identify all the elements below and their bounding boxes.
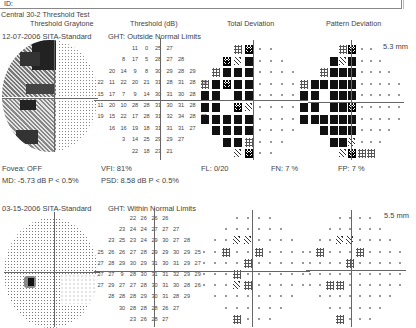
- exam-1-psd: PSD: 8.58 dB P < 0.5%: [101, 176, 179, 185]
- normal-point-icon: [280, 228, 282, 230]
- normal-point-icon: [270, 129, 272, 131]
- normal-point-icon: [269, 295, 271, 297]
- normal-point-icon: [269, 284, 271, 286]
- normal-point-icon: [370, 48, 372, 50]
- col-header-graytone: Threshold Graytone: [30, 19, 94, 28]
- p1-checker-icon: [223, 80, 231, 89]
- normal-point-icon: [389, 251, 391, 253]
- normal-point-icon: [369, 239, 371, 241]
- normal-point-icon: [259, 141, 261, 143]
- p05-solid-icon: [339, 103, 347, 112]
- normal-point-icon: [379, 141, 381, 143]
- p05-solid-icon: [223, 68, 231, 77]
- p1-checker-icon: [245, 45, 253, 54]
- p05-solid-icon: [320, 80, 328, 89]
- normal-point-icon: [399, 251, 401, 253]
- normal-point-icon: [361, 118, 363, 120]
- p05-solid-icon: [339, 91, 347, 100]
- normal-point-icon: [214, 262, 216, 264]
- p05-solid-icon: [339, 80, 347, 89]
- normal-point-icon: [270, 60, 272, 62]
- normal-point-icon: [225, 284, 227, 286]
- normal-point-icon: [369, 295, 371, 297]
- p05-solid-icon: [245, 68, 253, 77]
- normal-point-icon: [359, 228, 361, 230]
- normal-point-icon: [280, 273, 282, 275]
- normal-point-icon: [302, 273, 304, 275]
- normal-point-icon: [398, 118, 400, 120]
- p05-solid-icon: [330, 115, 338, 124]
- exam-2-pd-h-axis: [306, 270, 406, 271]
- p05-solid-icon: [223, 126, 231, 135]
- normal-point-icon: [388, 106, 390, 108]
- normal-point-icon: [214, 239, 216, 241]
- normal-point-icon: [369, 307, 371, 309]
- normal-point-icon: [269, 318, 271, 320]
- normal-point-icon: [329, 251, 331, 253]
- p05-solid-icon: [212, 80, 220, 89]
- p1-checker-icon: [348, 103, 356, 112]
- normal-point-icon: [258, 284, 260, 286]
- p05-solid-icon: [311, 103, 319, 112]
- normal-point-icon: [319, 273, 321, 275]
- p2-hatch-icon: [336, 236, 343, 244]
- normal-point-icon: [291, 273, 293, 275]
- normal-point-icon: [369, 251, 371, 253]
- normal-point-icon: [259, 83, 261, 85]
- id-label: ID:: [4, 0, 13, 7]
- normal-point-icon: [292, 129, 294, 131]
- p05-solid-icon: [234, 68, 242, 77]
- normal-point-icon: [329, 295, 331, 297]
- normal-point-icon: [359, 295, 361, 297]
- normal-point-icon: [339, 217, 341, 219]
- normal-point-icon: [270, 94, 272, 96]
- col-header-threshold: Threshold (dB): [130, 19, 178, 28]
- normal-point-icon: [236, 251, 238, 253]
- p2-hatch-icon: [234, 57, 241, 65]
- col-header-total-deviation: Total Deviation: [227, 19, 274, 28]
- normal-point-icon: [369, 273, 371, 275]
- normal-point-icon: [258, 217, 260, 219]
- normal-point-icon: [369, 262, 371, 264]
- threshold-value: 27: [159, 316, 172, 322]
- exam-1-pd-v-axis: [351, 40, 352, 160]
- threshold-value: 27: [175, 136, 188, 142]
- normal-point-icon: [361, 94, 363, 96]
- p05-solid-icon: [330, 57, 338, 66]
- p05-solid-icon: [234, 126, 242, 135]
- p5-dots-icon: [358, 149, 366, 158]
- normal-point-icon: [359, 318, 361, 320]
- normal-point-icon: [292, 106, 294, 108]
- normal-point-icon: [302, 251, 304, 253]
- normal-point-icon: [369, 284, 371, 286]
- normal-point-icon: [379, 60, 381, 62]
- normal-point-icon: [359, 217, 361, 219]
- normal-point-icon: [280, 262, 282, 264]
- p5-dots-icon: [255, 248, 263, 257]
- exam-1-ght: GHT: Outside Normal Limits: [108, 32, 201, 41]
- exam-2-td-h-axis: [200, 271, 310, 272]
- exam-2-td-v-axis: [252, 210, 253, 327]
- normal-point-icon: [225, 239, 227, 241]
- normal-point-icon: [258, 273, 260, 275]
- p05-solid-icon: [339, 126, 347, 135]
- normal-point-icon: [280, 239, 282, 241]
- threshold-value: 27: [186, 125, 199, 131]
- normal-point-icon: [225, 273, 227, 275]
- p5-dots-icon: [233, 315, 241, 324]
- exam-1-fixation-losses: FL: 0/20: [201, 164, 229, 173]
- p05-solid-icon: [234, 80, 242, 89]
- normal-point-icon: [370, 118, 372, 120]
- normal-point-icon: [329, 228, 331, 230]
- normal-point-icon: [359, 239, 361, 241]
- id-field: ID:: [0, 0, 402, 9]
- normal-point-icon: [379, 118, 381, 120]
- normal-point-icon: [281, 71, 283, 73]
- normal-point-icon: [319, 295, 321, 297]
- threshold-value: 28: [180, 237, 193, 243]
- normal-point-icon: [203, 262, 205, 264]
- normal-point-icon: [292, 83, 294, 85]
- normal-point-icon: [309, 284, 311, 286]
- normal-point-icon: [379, 83, 381, 85]
- normal-point-icon: [291, 262, 293, 264]
